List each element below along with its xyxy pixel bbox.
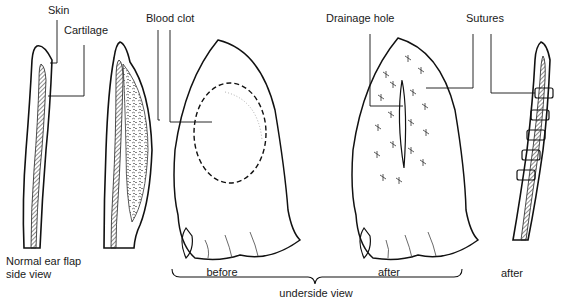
normal-ear-side-view xyxy=(23,46,52,248)
label-cartilage: Cartilage xyxy=(64,24,108,37)
swollen-ear-side-view xyxy=(104,42,152,248)
label-underside-view: underside view xyxy=(279,287,352,300)
label-sutures: Sutures xyxy=(466,12,504,25)
label-normal-ear-flap: Normal ear flap xyxy=(6,255,81,268)
label-skin: Skin xyxy=(48,4,69,17)
underside-after-view xyxy=(352,38,478,259)
label-drainage-hole: Drainage hole xyxy=(326,12,395,25)
cartilage-leader xyxy=(48,45,84,96)
blood-clot-leader-a xyxy=(158,30,160,120)
underside-before-view xyxy=(174,40,300,259)
label-blood-clot: Blood clot xyxy=(146,12,194,25)
ear-diagram-illustration xyxy=(0,0,567,302)
label-before: before xyxy=(206,266,237,279)
label-after-underside: after xyxy=(378,266,400,279)
label-side-view: side view xyxy=(6,268,51,281)
label-after-side: after xyxy=(501,267,523,280)
sutures-leader-b xyxy=(491,34,535,93)
sutured-ear-side-view xyxy=(513,42,553,240)
